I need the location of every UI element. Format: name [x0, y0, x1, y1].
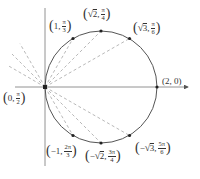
label-negsqrt3-5pi6: (− √3, 5π6 ) — [135, 141, 171, 155]
label-pole: (0, π2 ) — [3, 91, 25, 105]
point-sqrt3-pi6 — [128, 37, 131, 40]
label-1-pi3: (1, π3 ) — [49, 19, 71, 33]
label-sqrt2-pi4: ( √2, π4 ) — [83, 7, 110, 21]
point-negsqrt2-3pi4 — [99, 141, 102, 144]
pole-point — [43, 85, 47, 89]
label-negsqrt2-3pi4: (− √2, 3π4 ) — [85, 149, 121, 163]
label-2-0: (2, 0) — [162, 77, 182, 86]
point-negsqrt3-5pi6 — [128, 134, 131, 137]
point-2-0 — [155, 85, 158, 88]
point-sqrt2-pi4 — [99, 29, 102, 32]
point-1-pi3 — [71, 37, 74, 40]
label-sqrt3-pi6: ( √3, π6 ) — [133, 21, 160, 35]
label-neg1-2pi3: (−1, 2π3 ) — [46, 144, 77, 158]
point-neg1-2pi3 — [71, 134, 74, 137]
